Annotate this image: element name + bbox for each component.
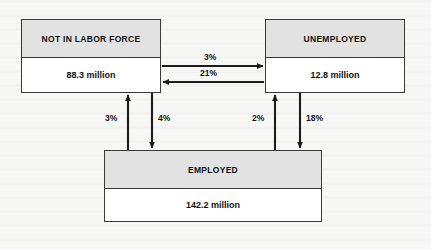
node-not-in-labor-force-value: 88.3 million	[22, 58, 160, 92]
flow-label-unemployed-to-employed: 18%	[306, 113, 323, 123]
flow-label-nilf-to-unemployed: 3%	[204, 52, 216, 62]
diagram-canvas: NOT IN LABOR FORCE 88.3 million UNEMPLOY…	[0, 0, 431, 249]
flow-label-nilf-to-employed: 4%	[158, 113, 170, 123]
node-not-in-labor-force: NOT IN LABOR FORCE 88.3 million	[21, 19, 161, 93]
node-employed: EMPLOYED 142.2 million	[104, 150, 322, 222]
node-unemployed: UNEMPLOYED 12.8 million	[265, 19, 405, 93]
flow-label-unemployed-to-nilf: 21%	[200, 68, 217, 78]
node-employed-value: 142.2 million	[105, 189, 321, 221]
node-unemployed-label: UNEMPLOYED	[266, 20, 404, 58]
flow-label-employed-to-unemployed: 2%	[252, 113, 264, 123]
node-unemployed-value: 12.8 million	[266, 58, 404, 92]
flow-label-employed-to-nilf: 3%	[105, 113, 117, 123]
node-not-in-labor-force-label: NOT IN LABOR FORCE	[22, 20, 160, 58]
node-employed-label: EMPLOYED	[105, 151, 321, 189]
